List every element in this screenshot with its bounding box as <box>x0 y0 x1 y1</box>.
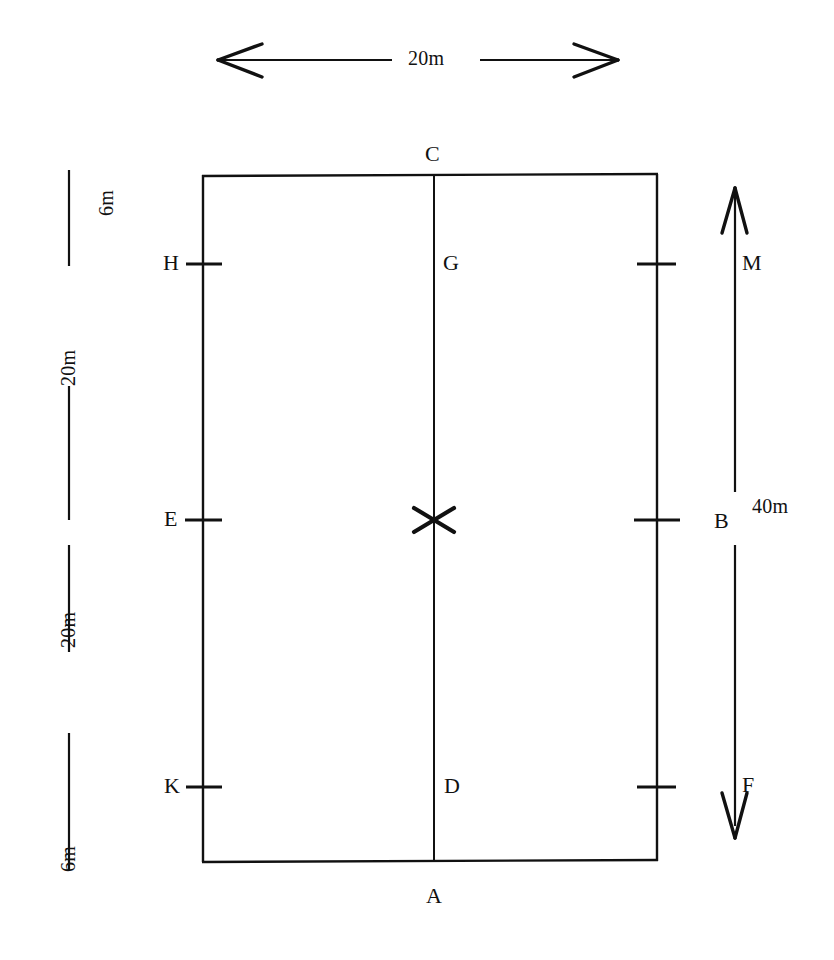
plot-diagram-svg <box>0 0 834 960</box>
point-label-G: G <box>443 252 459 274</box>
point-label-F: F <box>742 774 754 796</box>
left-dimension-label-6m-bottom: 6m <box>58 846 78 872</box>
point-label-E: E <box>164 508 178 530</box>
point-label-B: B <box>714 510 729 532</box>
left-dimension-label-20m-upper: 20m <box>58 350 78 386</box>
point-label-K: K <box>164 775 180 797</box>
point-label-H: H <box>163 252 179 274</box>
point-label-D: D <box>444 775 460 797</box>
left-dimension-label-6m-top: 6m <box>96 190 116 216</box>
diagram-canvas: 20m 6m 20m 20m 6m 40m C A G D H E K M B … <box>0 0 834 960</box>
point-label-A: A <box>426 885 442 907</box>
point-label-M: M <box>742 252 762 274</box>
right-dimension-label-40m: 40m <box>752 496 788 516</box>
left-dimension-label-20m-lower: 20m <box>58 612 78 648</box>
point-label-C: C <box>425 143 440 165</box>
top-dimension-label: 20m <box>408 48 444 68</box>
